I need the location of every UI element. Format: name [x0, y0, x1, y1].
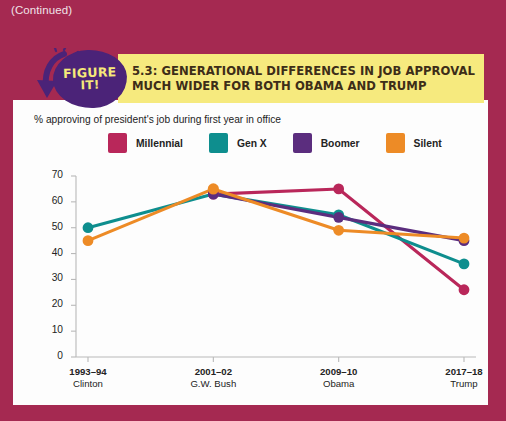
data-point-boomer [333, 212, 344, 223]
figure-title-banner: 5.3: GENERATIONAL DIFFERENCES IN JOB APP… [118, 54, 484, 103]
x-axis-period: 2017–18 [418, 366, 506, 377]
x-axis-president: G.W. Bush [167, 378, 259, 389]
data-point-gen-x [83, 222, 94, 233]
x-axis-president: Obama [293, 378, 385, 389]
chart-panel: % approving of president's job during fi… [13, 100, 488, 405]
series-line-millennial [213, 189, 464, 290]
figure-title-line-1: 5.3: GENERATIONAL DIFFERENCES IN JOB APP… [132, 64, 484, 79]
x-axis-tick-label: 2001–02G.W. Bush [167, 366, 259, 389]
data-point-silent [83, 235, 94, 246]
plot-area: 0102030405060701993–94Clinton2001–02G.W.… [13, 100, 488, 405]
y-axis-tick-label: 70 [37, 169, 63, 180]
data-point-millennial [459, 284, 470, 295]
y-axis-tick-label: 0 [37, 350, 63, 361]
badge-line-2: IT! [80, 79, 99, 93]
x-axis-president: Clinton [42, 378, 134, 389]
figure-header: FIGURE IT! 5.3: GENERATIONAL DIFFERENCES… [0, 26, 506, 94]
x-axis-period: 2009–10 [293, 366, 385, 377]
y-axis-tick-label: 10 [37, 324, 63, 335]
y-axis-tick-label: 20 [37, 298, 63, 309]
x-axis-president: Trump [418, 378, 506, 389]
x-axis-period: 1993–94 [42, 366, 134, 377]
series-line-silent [88, 189, 464, 241]
data-point-silent-peak [208, 183, 219, 194]
y-axis-tick-label: 50 [37, 221, 63, 232]
x-axis-period: 2001–02 [167, 366, 259, 377]
line-chart-svg [13, 100, 488, 405]
y-axis-tick-label: 60 [37, 195, 63, 206]
x-axis-tick-label: 2017–18Trump [418, 366, 506, 389]
figure-title-line-2: MUCH WIDER FOR BOTH OBAMA AND TRUMP [132, 79, 484, 94]
continued-note: (Continued) [11, 4, 72, 16]
data-point-millennial [333, 184, 344, 195]
data-point-silent [459, 233, 470, 244]
x-axis-tick-label: 2009–10Obama [293, 366, 385, 389]
x-axis-tick-label: 1993–94Clinton [42, 366, 134, 389]
data-point-silent [333, 225, 344, 236]
y-axis-tick-label: 40 [37, 247, 63, 258]
y-axis-tick-label: 30 [37, 272, 63, 283]
data-point-gen-x [459, 259, 470, 270]
